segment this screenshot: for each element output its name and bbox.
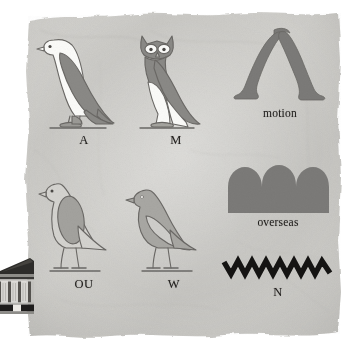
glyph-label-motion: motion xyxy=(263,108,297,120)
temple-frieze xyxy=(0,277,34,280)
greek-temple-icon xyxy=(0,258,34,320)
quail-chick-light-glyph xyxy=(34,172,134,276)
temple-step-top xyxy=(0,303,34,305)
temple-cornice xyxy=(0,280,34,282)
glyph-label-a: A xyxy=(79,134,89,147)
hieroglyph-plate: A xyxy=(0,0,347,353)
glyph-cell-w: W xyxy=(122,182,226,291)
hill-country-shape xyxy=(228,165,329,213)
glyph-cell-ou: OU xyxy=(34,172,134,291)
temple-doorway xyxy=(13,305,21,312)
temple-step-bottom xyxy=(0,312,34,315)
walking-legs-glyph xyxy=(228,26,332,106)
glyph-label-m: M xyxy=(170,134,182,147)
glyph-label-overseas: overseas xyxy=(257,217,298,229)
quail-chick-dark-glyph xyxy=(122,182,226,276)
vulture-glyph xyxy=(34,24,134,132)
glyph-cell-a: A xyxy=(34,24,134,147)
glyph-label-n: N xyxy=(273,286,283,299)
glyph-cell-overseas: overseas xyxy=(222,163,334,229)
glyph-label-w: W xyxy=(168,278,180,291)
glyph-cell-n: N xyxy=(220,252,336,299)
glyph-label-ou: OU xyxy=(74,278,93,291)
glyph-cell-m: M xyxy=(126,24,226,147)
glyph-cell-motion: motion xyxy=(228,26,332,120)
water-ripple-line xyxy=(224,261,330,274)
owl-glyph xyxy=(126,24,226,132)
temple-columns xyxy=(0,282,34,303)
temple-architrave xyxy=(0,274,34,277)
water-ripple-glyph xyxy=(220,252,336,284)
hill-country-glyph xyxy=(222,163,334,215)
